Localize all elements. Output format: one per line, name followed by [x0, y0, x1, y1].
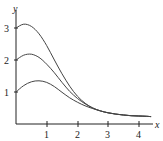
y-axis-label: y — [12, 3, 18, 14]
curve-2 — [16, 54, 151, 117]
x-tick-label: 3 — [105, 129, 110, 140]
x-axis-label: x — [154, 119, 160, 130]
x-tick-label: 1 — [44, 129, 49, 140]
y-tick-label: 2 — [4, 55, 9, 66]
y-tick-label: 3 — [4, 23, 9, 34]
curves — [16, 24, 151, 116]
curve-3 — [16, 81, 151, 117]
y-tick-label: 1 — [4, 87, 9, 98]
x-tick-label: 2 — [75, 129, 80, 140]
x-tick-label: 4 — [136, 129, 141, 140]
chart: y x 1 2 3 4 1 2 3 — [0, 0, 163, 141]
